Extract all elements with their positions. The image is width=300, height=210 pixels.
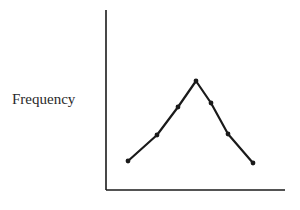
frequency-polygon-line [128, 81, 253, 163]
data-point [155, 133, 160, 138]
data-point [176, 105, 181, 110]
data-point [251, 161, 256, 166]
data-point [194, 79, 199, 84]
data-points [126, 79, 256, 166]
frequency-chart: Frequency [0, 0, 300, 210]
data-point [226, 132, 231, 137]
plot-area [0, 0, 300, 210]
data-point [209, 101, 214, 106]
data-point [126, 159, 131, 164]
